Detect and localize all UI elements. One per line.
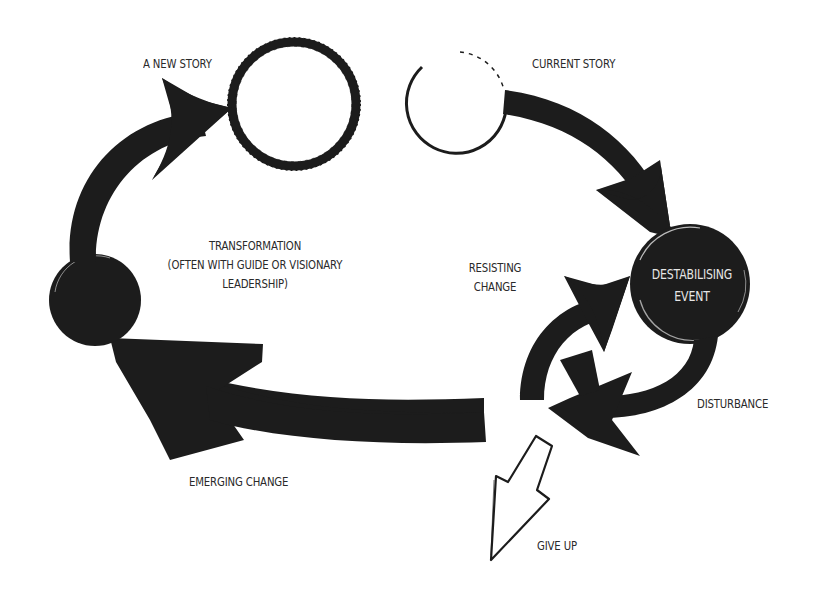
destabilising-line-1: DESTABILISING	[637, 263, 746, 285]
label-destabilising-event: DESTABILISING EVENT	[637, 263, 746, 307]
arrow-transformation-to-new-story	[70, 78, 232, 262]
resisting-line-1: RESISTING	[452, 258, 538, 277]
label-disturbance: DISTURBANCE	[697, 394, 768, 413]
label-resisting-change: RESISTING CHANGE	[452, 258, 538, 296]
new-story-node	[228, 38, 360, 170]
arrow-current-to-destabilising	[503, 90, 682, 240]
transformation-line-2: (OFTEN WITH GUIDE OR VISIONARY	[134, 255, 376, 274]
transformation-line-1: TRANSFORMATION	[134, 236, 376, 255]
transformation-line-3: LEADERSHIP)	[134, 274, 376, 293]
label-new-story: A NEW STORY	[143, 54, 212, 73]
resisting-line-2: CHANGE	[452, 277, 538, 296]
arrow-emerging-change	[110, 338, 486, 460]
current-story-node	[406, 52, 506, 153]
arrow-disturbance	[548, 336, 718, 456]
transformation-node	[49, 254, 141, 346]
label-transformation: TRANSFORMATION (OFTEN WITH GUIDE OR VISI…	[134, 236, 376, 293]
label-give-up: GIVE UP	[537, 536, 577, 555]
label-emerging-change: EMERGING CHANGE	[189, 472, 288, 491]
destabilising-line-2: EVENT	[637, 285, 746, 307]
label-current-story: CURRENT STORY	[532, 54, 615, 73]
